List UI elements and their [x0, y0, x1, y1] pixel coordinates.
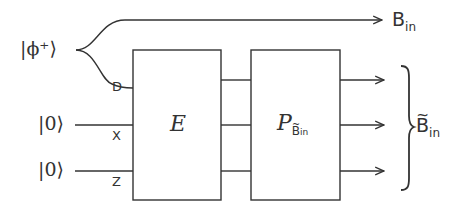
projector-label-base: P	[277, 110, 292, 135]
zero-input-label-1: |0⟩	[38, 114, 64, 133]
fork-lower-wire	[76, 50, 133, 88]
fork-upper-wire	[76, 20, 382, 50]
output-top-label: Bin	[392, 10, 416, 33]
projector-subscript: Bin	[292, 124, 308, 138]
output-top-suffix: in	[405, 20, 416, 34]
bell-state-label: |ϕ⁺⟩	[20, 39, 57, 58]
port-z-label: Z	[112, 175, 121, 188]
output-bracket-label: Bin	[416, 116, 440, 139]
port-x-label: X	[112, 129, 121, 142]
port-d-label: D	[112, 80, 122, 93]
circuit-diagram	[0, 0, 456, 211]
projector-subscript-suffix: in	[300, 127, 308, 137]
encoder-label: E	[170, 113, 186, 135]
curly-brace	[401, 66, 414, 190]
zero-input-label-2: |0⟩	[38, 160, 64, 179]
projector-label: PBin	[277, 112, 308, 137]
output-top-base: B	[392, 8, 405, 30]
output-bracket-suffix: in	[429, 126, 440, 140]
projector-subscript-base: B	[292, 125, 300, 137]
output-bracket-base: B	[416, 116, 429, 135]
